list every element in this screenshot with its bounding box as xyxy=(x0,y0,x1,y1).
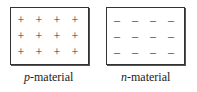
plus-charge-icon: + xyxy=(34,31,44,41)
minus-charge-icon: – xyxy=(148,47,158,57)
plus-charge-icon: + xyxy=(34,47,44,57)
minus-charge-icon: – xyxy=(112,15,122,25)
plus-charge-icon: + xyxy=(34,15,44,25)
n-label-suffix: -material xyxy=(127,70,170,84)
minus-charge-icon: – xyxy=(112,31,122,41)
plus-charge-icon: + xyxy=(52,15,62,25)
plus-charge-icon: + xyxy=(16,47,26,57)
negative-charge-grid: –––––––––––– xyxy=(107,8,184,64)
minus-charge-icon: – xyxy=(130,47,140,57)
minus-charge-icon: – xyxy=(166,15,176,25)
positive-charge-grid: ++++++++++++ xyxy=(11,8,88,64)
minus-charge-icon: – xyxy=(148,31,158,41)
plus-charge-icon: + xyxy=(52,31,62,41)
minus-charge-icon: – xyxy=(130,31,140,41)
minus-charge-icon: – xyxy=(166,47,176,57)
plus-charge-icon: + xyxy=(70,31,80,41)
minus-charge-icon: – xyxy=(148,15,158,25)
n-material-box: –––––––––––– xyxy=(106,7,185,65)
minus-charge-icon: – xyxy=(166,31,176,41)
plus-charge-icon: + xyxy=(16,31,26,41)
plus-charge-icon: + xyxy=(52,47,62,57)
minus-charge-icon: – xyxy=(130,15,140,25)
p-material-box: ++++++++++++ xyxy=(10,7,89,65)
p-label-suffix: -material xyxy=(30,70,73,84)
plus-charge-icon: + xyxy=(70,15,80,25)
n-material-label: n-material xyxy=(121,70,170,85)
minus-charge-icon: – xyxy=(112,47,122,57)
plus-charge-icon: + xyxy=(16,15,26,25)
p-material-label: p-material xyxy=(24,70,73,85)
plus-charge-icon: + xyxy=(70,47,80,57)
